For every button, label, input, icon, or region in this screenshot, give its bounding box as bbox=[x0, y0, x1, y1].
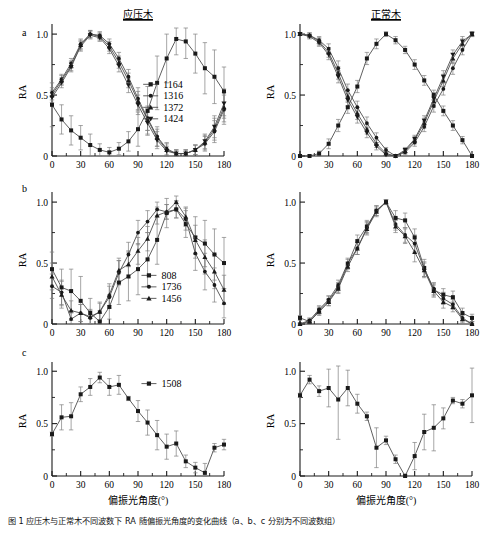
panel-label-c: c bbox=[22, 347, 27, 358]
data-point bbox=[203, 471, 207, 475]
data-point bbox=[222, 261, 226, 265]
data-point bbox=[60, 285, 64, 289]
data-point bbox=[203, 270, 207, 274]
y-axis-label: RA bbox=[265, 252, 276, 267]
data-point bbox=[365, 121, 369, 125]
y-axis-label: RA bbox=[265, 413, 276, 428]
legend-label: 1508 bbox=[161, 378, 181, 389]
data-point bbox=[212, 269, 217, 274]
x-tick-label: 150 bbox=[188, 160, 203, 170]
data-point bbox=[155, 238, 159, 242]
data-point bbox=[145, 236, 150, 241]
legend: 80817361456 bbox=[141, 270, 181, 304]
data-point bbox=[451, 295, 455, 299]
legend-label: 1424 bbox=[163, 113, 183, 124]
data-point bbox=[365, 56, 369, 60]
data-point bbox=[222, 443, 226, 447]
data-point bbox=[460, 402, 464, 406]
x-tick-label: 60 bbox=[105, 480, 115, 490]
data-point bbox=[422, 78, 426, 82]
data-point bbox=[212, 75, 216, 79]
x-tick-label: 180 bbox=[465, 160, 480, 170]
data-point bbox=[346, 88, 350, 92]
x-tick-label: 30 bbox=[324, 480, 334, 490]
x-ticks: 0306090120150180 bbox=[298, 471, 480, 490]
data-point bbox=[441, 87, 445, 91]
x-tick-label: 150 bbox=[436, 328, 451, 338]
data-point bbox=[413, 63, 417, 67]
legend-label: 1456 bbox=[161, 293, 181, 304]
y-tick-label: 0 bbox=[43, 320, 48, 330]
y-tick-label: 0.5 bbox=[284, 91, 296, 101]
data-point bbox=[413, 235, 417, 239]
series-1372 bbox=[298, 32, 475, 158]
data-point bbox=[355, 85, 359, 89]
data-point bbox=[136, 267, 140, 271]
y-axis-label: RA bbox=[17, 252, 28, 267]
data-point bbox=[127, 253, 131, 257]
x-tick-label: 90 bbox=[133, 480, 143, 490]
data-point bbox=[60, 415, 64, 419]
x-tick-label: 90 bbox=[381, 328, 391, 338]
data-point bbox=[317, 389, 321, 393]
data-point bbox=[346, 105, 350, 109]
y-tick-label: 0.5 bbox=[36, 259, 48, 269]
error-bars bbox=[50, 196, 226, 324]
data-point bbox=[146, 421, 150, 425]
x-ticks: 0306090120150180 bbox=[50, 151, 232, 170]
x-tick-label: 180 bbox=[217, 480, 232, 490]
data-point bbox=[193, 52, 197, 56]
data-point bbox=[355, 402, 359, 406]
y-axis-label: RA bbox=[265, 84, 276, 99]
data-point bbox=[107, 150, 111, 154]
legend-marker bbox=[147, 273, 151, 277]
legend: 1164131613721424 bbox=[143, 79, 183, 125]
x-tick-label: 90 bbox=[381, 160, 391, 170]
data-point bbox=[60, 117, 64, 121]
series-1316 bbox=[298, 32, 474, 158]
data-point bbox=[174, 37, 178, 41]
error-bars bbox=[50, 28, 226, 156]
x-axis-label: 偏振光角度(°) bbox=[356, 494, 417, 507]
data-point bbox=[88, 143, 92, 147]
data-point bbox=[202, 254, 207, 259]
data-point bbox=[50, 267, 54, 271]
y-tick-label: 0 bbox=[43, 472, 48, 482]
legend-label: 1316 bbox=[163, 90, 183, 101]
panel-label-b: b bbox=[22, 183, 27, 194]
x-tick-label: 30 bbox=[324, 328, 334, 338]
y-tick-label: 0.5 bbox=[284, 419, 296, 429]
x-tick-label: 60 bbox=[105, 160, 115, 170]
panel-a-compression: 00.51.00306090120150180RA116413161372142… bbox=[17, 24, 231, 170]
data-point bbox=[146, 109, 150, 113]
data-point bbox=[374, 42, 378, 46]
y-tick-label: 0.5 bbox=[284, 259, 296, 269]
data-point bbox=[165, 56, 169, 60]
data-point bbox=[174, 442, 178, 446]
data-point bbox=[460, 138, 464, 142]
x-tick-label: 0 bbox=[298, 480, 303, 490]
data-point bbox=[117, 281, 121, 285]
data-point bbox=[184, 39, 188, 43]
data-point bbox=[451, 399, 455, 403]
data-point bbox=[146, 257, 150, 261]
x-tick-label: 120 bbox=[160, 328, 175, 338]
figure-svg: 00.51.00306090120150180RA116413161372142… bbox=[0, 0, 494, 535]
panel-b-compression: 00.51.00306090120150180RA80817361456 bbox=[17, 192, 231, 338]
data-point bbox=[184, 459, 188, 463]
data-point bbox=[374, 446, 378, 450]
y-tick-label: 1.0 bbox=[36, 30, 48, 40]
legend-marker bbox=[147, 382, 151, 386]
y-axis-label: RA bbox=[17, 413, 28, 428]
data-point bbox=[413, 454, 417, 458]
data-point bbox=[394, 457, 398, 461]
data-point bbox=[461, 48, 465, 52]
x-tick-label: 60 bbox=[353, 328, 363, 338]
data-point bbox=[193, 466, 197, 470]
data-point bbox=[470, 154, 474, 158]
x-tick-label: 0 bbox=[50, 480, 55, 490]
data-point bbox=[79, 299, 83, 303]
y-tick-label: 0 bbox=[43, 152, 48, 162]
data-point bbox=[346, 386, 350, 390]
x-tick-label: 120 bbox=[408, 328, 423, 338]
